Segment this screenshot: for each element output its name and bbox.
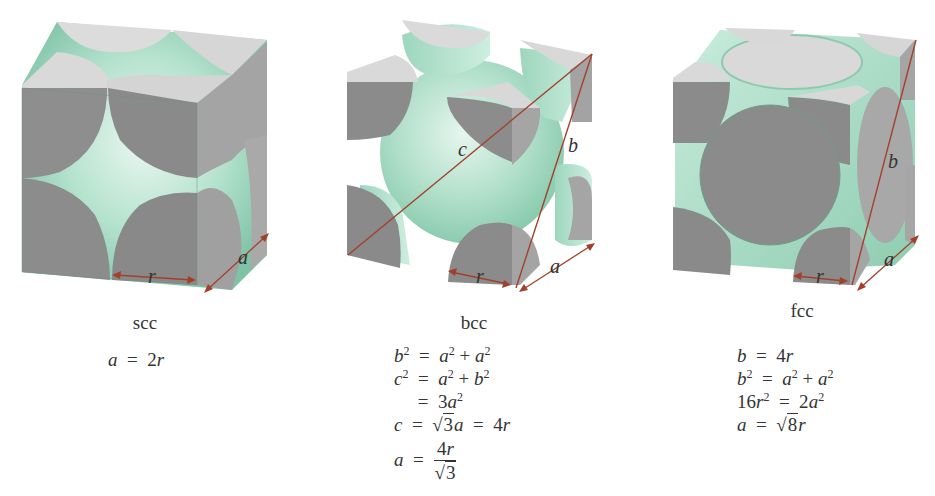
equation: b = 4r: [737, 344, 833, 367]
equation: b2 = a2 + a2: [394, 344, 510, 367]
equation: c = √3a = 4r: [394, 413, 510, 436]
b-label: b: [888, 150, 898, 172]
bcc-equations: b2 = a2 + a2 c2 = a2 + b2 = 3a2 c = √3a …: [394, 344, 510, 485]
equation: a = 4r√3: [394, 438, 510, 485]
fcc-panel: b r a fcc b = 4r b2 = a2 + a2 16r2 = 2a2…: [660, 0, 935, 496]
fcc-unit-cell-illustration: b r a: [660, 0, 935, 300]
bcc-panel: c b r a bcc b2 = a2 + a2 c2 = a2 + b2 = …: [330, 0, 640, 496]
equation: 16r2 = 2a2: [737, 390, 833, 413]
c-label: c: [458, 138, 467, 160]
scc-unit-cell-illustration: r a: [0, 0, 310, 300]
b-label: b: [568, 134, 578, 156]
a-label: a: [884, 248, 894, 270]
scc-panel: r a scc a = 2r: [0, 0, 310, 496]
a-label: a: [238, 246, 248, 268]
r-label: r: [816, 265, 824, 287]
a-label: a: [550, 255, 560, 277]
equation: b2 = a2 + a2: [737, 367, 833, 390]
equation: a = 2r: [108, 348, 164, 371]
scc-equations: a = 2r: [108, 348, 164, 371]
equation: c2 = a2 + b2: [394, 367, 510, 390]
equation: a = √8r: [737, 413, 833, 436]
r-label: r: [476, 265, 484, 287]
fcc-caption: fcc: [752, 300, 852, 322]
scc-caption: scc: [95, 312, 195, 334]
bcc-caption: bcc: [424, 312, 524, 334]
r-label: r: [148, 265, 156, 287]
equation: = 3a2: [394, 390, 510, 413]
fcc-equations: b = 4r b2 = a2 + a2 16r2 = 2a2 a = √8r: [737, 344, 833, 436]
bcc-unit-cell-illustration: c b r a: [330, 0, 640, 300]
